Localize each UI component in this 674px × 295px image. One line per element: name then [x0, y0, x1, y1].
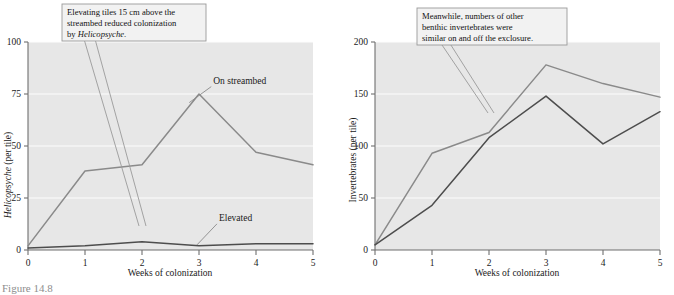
y-tick-label: 50 — [359, 193, 369, 203]
y-tick-label: 0 — [363, 245, 368, 255]
x-tick-label: 4 — [254, 258, 259, 268]
chart-panel-right: 050100150200 012345 Invertebrates (per t… — [337, 0, 674, 295]
y-axis-title-genus: Helicopsyche — [3, 167, 13, 219]
figure-caption-svg: Figure 14.8 — [0, 280, 200, 295]
callout-line: streambed reduced colonization — [67, 18, 177, 28]
callout-line: Elevating tiles 15 cm above the — [67, 7, 175, 17]
y-tick-label: 200 — [354, 37, 369, 47]
x-tick-label: 3 — [197, 258, 202, 268]
x-tick-label: 0 — [373, 258, 378, 268]
callout-line: benthic invertebrates were — [422, 22, 513, 32]
chart-panel-left: 0255075100 012345 On streambedElevated H… — [0, 0, 337, 295]
x-tick-label: 5 — [658, 258, 663, 268]
series-annotation-label: On streambed — [213, 76, 266, 86]
series-annotation-label: Elevated — [219, 213, 252, 223]
x-tick-label: 0 — [26, 258, 31, 268]
x-tick-label: 4 — [601, 258, 606, 268]
callout-line: Meanwhile, numbers of other — [422, 11, 524, 21]
y-axis-title-unit: (per tile) — [3, 132, 14, 167]
figure-caption: Figure 14.8 — [2, 282, 53, 294]
x-tick-label: 2 — [140, 258, 145, 268]
x-axis-title: Weeks of colonization — [475, 268, 560, 278]
figure-container: 0255075100 012345 On streambedElevated H… — [0, 0, 674, 295]
y-tick-label: 0 — [16, 245, 21, 255]
callout-line: similar on and off the exclosure. — [422, 33, 533, 43]
x-axis-ticks: 012345 — [26, 250, 316, 268]
y-tick-label: 75 — [12, 89, 22, 99]
y-tick-label: 150 — [354, 89, 369, 99]
y-axis-title: Helicopsyche (per tile) — [3, 132, 14, 220]
x-axis-title: Weeks of colonization — [128, 268, 213, 278]
y-tick-label: 100 — [7, 37, 22, 47]
x-tick-label: 5 — [311, 258, 316, 268]
x-axis-ticks: 012345 — [373, 250, 663, 268]
x-tick-label: 3 — [544, 258, 549, 268]
x-tick-label: 1 — [430, 258, 435, 268]
callout-line: by Helicopsyche. — [67, 29, 126, 39]
x-tick-label: 1 — [83, 258, 88, 268]
x-tick-label: 2 — [487, 258, 492, 268]
y-axis-title: Invertebrates (per tile) — [348, 118, 359, 203]
